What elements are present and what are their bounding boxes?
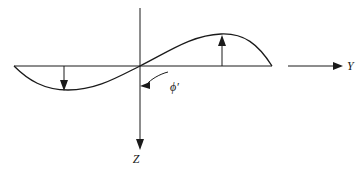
z-axis-arrowhead-icon xyxy=(136,139,144,150)
phi-angle-arrowhead-icon xyxy=(140,82,150,89)
y-axis-arrowhead-icon xyxy=(333,62,343,70)
z-axis-label: Z xyxy=(133,152,140,166)
figure-container: Y Z ϕ′ xyxy=(0,0,359,169)
crest-arrowhead-icon xyxy=(218,35,226,46)
deflection-curve xyxy=(14,34,272,90)
deflection-diagram: Y Z ϕ′ xyxy=(0,0,359,169)
y-axis-label: Y xyxy=(347,59,355,73)
phi-angle-label: ϕ′ xyxy=(170,80,179,94)
